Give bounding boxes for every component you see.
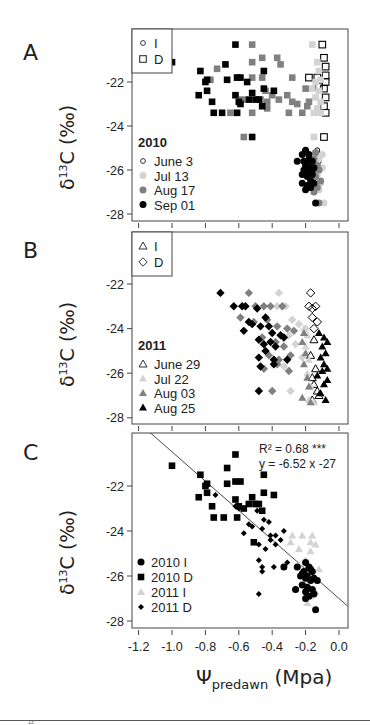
regression-equation: y = -6.52 x -27 bbox=[259, 457, 336, 471]
y-tick-label: -24 bbox=[106, 525, 124, 539]
panel-letter-a: A bbox=[23, 40, 38, 65]
data-point bbox=[288, 532, 296, 539]
data-point bbox=[312, 365, 320, 372]
data-point bbox=[259, 103, 266, 110]
data-point bbox=[316, 88, 323, 95]
bottom-divider bbox=[0, 720, 370, 721]
data-point bbox=[298, 338, 306, 345]
y-axis-label-b: δ13C (‰) bbox=[56, 302, 78, 387]
data-point bbox=[261, 85, 268, 92]
data-point bbox=[284, 92, 291, 99]
data-point bbox=[222, 61, 229, 68]
y-tick-label: -24 bbox=[106, 322, 124, 336]
data-point bbox=[287, 538, 295, 545]
date-legend-label: Aug 25 bbox=[154, 401, 195, 416]
data-point bbox=[241, 134, 248, 141]
data-point bbox=[138, 559, 145, 566]
data-point bbox=[220, 514, 227, 521]
data-point bbox=[307, 566, 314, 573]
data-point bbox=[256, 591, 262, 597]
data-point bbox=[232, 92, 239, 99]
data-point bbox=[322, 63, 329, 70]
data-point bbox=[236, 313, 244, 321]
data-point bbox=[195, 92, 202, 99]
data-point bbox=[312, 606, 319, 613]
data-point bbox=[314, 577, 321, 584]
data-point bbox=[280, 342, 288, 350]
data-point bbox=[277, 61, 284, 68]
r-squared-annotation: R² = 0.68 *** bbox=[259, 442, 326, 456]
x-tick-label: -0.4 bbox=[261, 640, 283, 654]
data-point bbox=[292, 586, 299, 593]
data-point bbox=[309, 85, 316, 92]
data-point bbox=[202, 483, 209, 490]
treatment-legend-label: I bbox=[154, 239, 158, 254]
y-tick-label: -26 bbox=[106, 164, 124, 178]
data-point bbox=[249, 494, 256, 501]
data-point bbox=[249, 110, 256, 117]
data-point bbox=[139, 389, 147, 396]
data-point bbox=[273, 322, 281, 330]
data-point bbox=[271, 88, 278, 95]
data-point bbox=[224, 77, 231, 84]
series-legend-label: 2011 I bbox=[151, 585, 186, 600]
data-point bbox=[138, 574, 145, 581]
data-point bbox=[259, 55, 266, 62]
data-point bbox=[266, 519, 272, 525]
series-legend-label: 2010 I bbox=[151, 555, 187, 570]
data-point bbox=[266, 302, 274, 310]
date-legend-label: Aug 03 bbox=[154, 386, 195, 401]
data-point bbox=[302, 595, 309, 602]
date-legend-title: 2010 bbox=[138, 135, 167, 150]
data-point bbox=[275, 289, 283, 297]
data-point bbox=[237, 101, 244, 108]
data-point bbox=[232, 41, 239, 48]
data-point bbox=[246, 501, 253, 508]
data-point bbox=[271, 492, 278, 499]
data-point bbox=[321, 134, 328, 141]
data-point bbox=[237, 478, 244, 485]
date-legend-label: Sep 01 bbox=[154, 198, 195, 213]
data-point bbox=[281, 528, 287, 534]
data-point bbox=[237, 74, 244, 81]
data-point bbox=[216, 289, 224, 297]
data-point bbox=[283, 324, 291, 332]
data-point bbox=[302, 349, 310, 356]
data-point bbox=[224, 480, 231, 487]
data-point bbox=[259, 74, 266, 81]
data-point bbox=[224, 465, 231, 472]
data-point bbox=[280, 564, 287, 571]
data-point bbox=[278, 537, 284, 543]
data-point bbox=[204, 489, 211, 496]
data-point bbox=[249, 59, 256, 66]
y-tick-label: -22 bbox=[106, 278, 124, 292]
data-point bbox=[311, 110, 318, 117]
data-point bbox=[312, 200, 319, 207]
data-point bbox=[316, 68, 323, 75]
data-point bbox=[286, 387, 294, 395]
data-point bbox=[294, 564, 301, 571]
data-point bbox=[276, 96, 283, 103]
y-tick-label: -22 bbox=[106, 480, 124, 494]
data-point bbox=[291, 340, 299, 348]
data-point bbox=[274, 55, 281, 62]
treatment-legend-label: D bbox=[154, 255, 163, 270]
data-point bbox=[307, 547, 315, 554]
data-point bbox=[314, 59, 321, 66]
y-tick-label: -26 bbox=[106, 570, 124, 584]
data-point bbox=[295, 545, 303, 552]
data-point bbox=[298, 532, 306, 539]
data-point bbox=[309, 41, 316, 48]
data-point bbox=[305, 356, 313, 363]
date-legend-label: Jul 13 bbox=[154, 169, 189, 184]
y-tick-label: -24 bbox=[106, 120, 124, 134]
treatment-legend-label: D bbox=[154, 52, 163, 67]
data-point bbox=[309, 167, 316, 174]
data-point bbox=[256, 557, 262, 563]
data-point bbox=[317, 110, 324, 117]
y-tick-label: -28 bbox=[106, 615, 124, 629]
data-point bbox=[261, 68, 268, 75]
data-point bbox=[294, 158, 301, 165]
data-point bbox=[319, 41, 326, 48]
data-point bbox=[289, 74, 296, 81]
